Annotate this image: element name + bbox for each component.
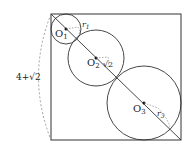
label-r3: r3 — [157, 109, 165, 119]
label-r2: √2 — [103, 60, 113, 69]
label-r1: r1 — [82, 20, 90, 30]
label-o3: O3 — [133, 103, 146, 116]
diagram-canvas: O1 r1 O2 √2 O3 r3 4+√2 — [0, 0, 191, 154]
label-side: 4+√2 — [16, 72, 41, 82]
